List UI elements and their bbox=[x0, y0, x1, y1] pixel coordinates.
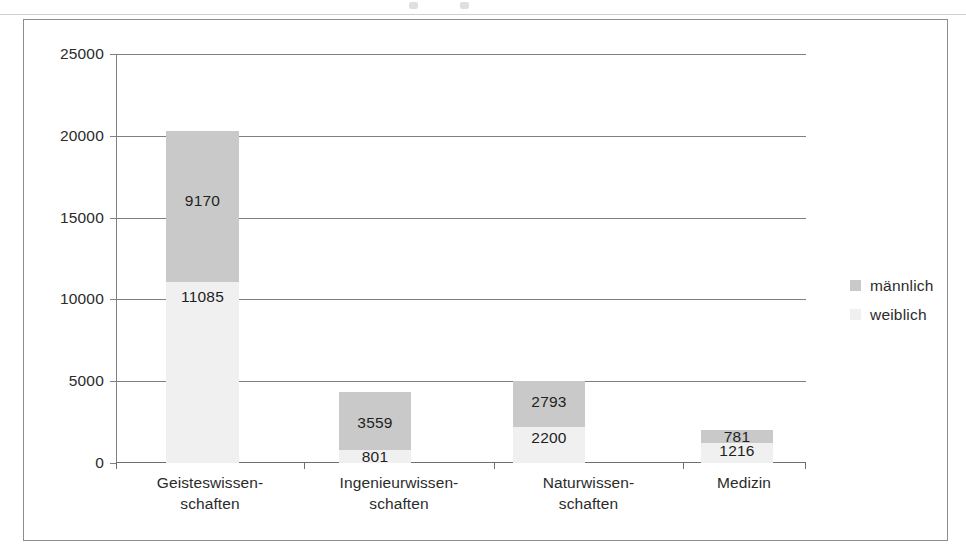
bar-value-weiblich: 11085 bbox=[181, 288, 224, 306]
bar-value-weiblich: 1216 bbox=[719, 442, 754, 460]
bar-geisteswissenschaften[interactable]: 9170 11085 bbox=[166, 131, 239, 463]
scan-artifact-dot-2 bbox=[460, 2, 469, 9]
category-label-naturwissenschaften: Naturwissen- schaften bbox=[494, 472, 683, 514]
legend-label-maennlich: männlich bbox=[870, 277, 934, 295]
category-label-line1: Geisteswissen- bbox=[116, 472, 304, 493]
bar-segment-maennlich[interactable]: 3559 bbox=[339, 392, 411, 450]
chart-frame: 25000 20000 15000 10000 5000 0 bbox=[23, 19, 948, 541]
xtick-2 bbox=[494, 463, 495, 469]
category-label-line2: schaften bbox=[116, 493, 304, 514]
bar-value-maennlich: 3559 bbox=[357, 414, 392, 432]
bar-segment-maennlich[interactable]: 2793 bbox=[513, 381, 585, 427]
chart-legend: männlich weiblich bbox=[850, 271, 934, 329]
legend-swatch-maennlich bbox=[850, 280, 861, 291]
bar-value-weiblich: 801 bbox=[362, 448, 388, 466]
xtick-0 bbox=[116, 463, 117, 469]
bar-segment-weiblich[interactable]: 11085 bbox=[166, 282, 239, 464]
ytick-label-10000: 10000 bbox=[60, 290, 104, 308]
bar-value-maennlich: 9170 bbox=[185, 192, 220, 210]
bar-medizin[interactable]: 781 1216 bbox=[701, 430, 773, 463]
bar-segment-weiblich[interactable]: 2200 bbox=[513, 427, 585, 463]
scan-artifact-line bbox=[0, 14, 966, 15]
ytick-label-0: 0 bbox=[95, 454, 104, 472]
legend-item-weiblich[interactable]: weiblich bbox=[850, 300, 934, 329]
category-label-line2: schaften bbox=[304, 493, 494, 514]
bar-value-maennlich: 2793 bbox=[531, 393, 566, 411]
ytick-label-20000: 20000 bbox=[60, 127, 104, 145]
legend-item-maennlich[interactable]: männlich bbox=[850, 271, 934, 300]
legend-swatch-weiblich bbox=[850, 309, 861, 320]
category-label-medizin: Medizin bbox=[683, 472, 805, 493]
xtick-3 bbox=[683, 463, 684, 469]
category-label-line1: Naturwissen- bbox=[494, 472, 683, 493]
ytick-label-15000: 15000 bbox=[60, 209, 104, 227]
xtick-1 bbox=[304, 463, 305, 469]
legend-label-weiblich: weiblich bbox=[870, 306, 927, 324]
ytick-label-25000: 25000 bbox=[60, 45, 104, 63]
bar-value-weiblich: 2200 bbox=[531, 429, 566, 447]
bar-segment-maennlich[interactable]: 9170 bbox=[166, 131, 239, 281]
category-label-line1: Ingenieurwissen- bbox=[304, 472, 494, 493]
ytick-label-5000: 5000 bbox=[69, 372, 104, 390]
y-axis-line bbox=[116, 54, 117, 463]
category-label-line1: Medizin bbox=[683, 472, 805, 493]
category-label-geisteswissenschaften: Geisteswissen- schaften bbox=[116, 472, 304, 514]
category-label-ingenieurwissenschaften: Ingenieurwissen- schaften bbox=[304, 472, 494, 514]
bar-naturwissenschaften[interactable]: 2793 2200 bbox=[513, 381, 585, 463]
xtick-4 bbox=[805, 463, 806, 469]
bar-ingenieurwissenschaften[interactable]: 3559 801 bbox=[339, 392, 411, 463]
bar-segment-weiblich[interactable]: 1216 bbox=[701, 443, 773, 463]
category-label-line2: schaften bbox=[494, 493, 683, 514]
plot-area: 25000 20000 15000 10000 5000 0 bbox=[116, 54, 806, 463]
scan-artifact-dot-1 bbox=[409, 2, 418, 9]
bar-segment-weiblich[interactable]: 801 bbox=[339, 450, 411, 463]
